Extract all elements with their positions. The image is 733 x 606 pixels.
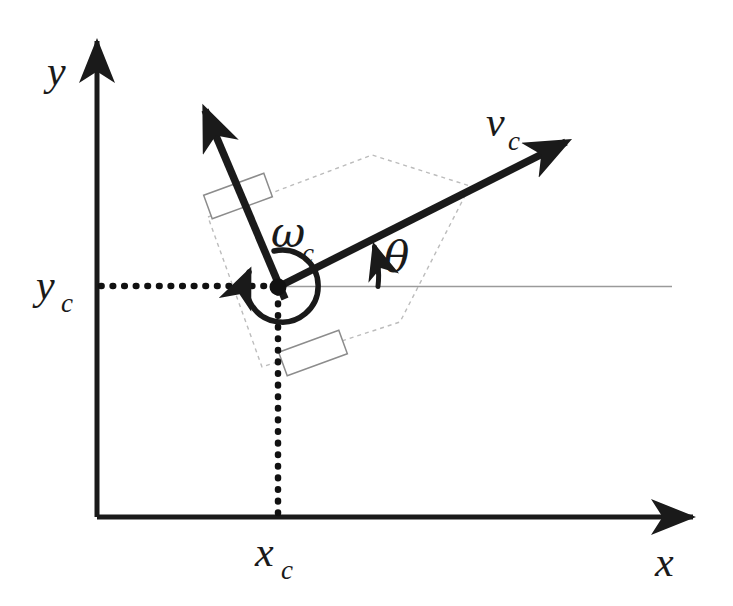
yc-label-subscript: c [61,288,73,318]
center-point-marker [270,279,287,296]
yc-label-base: y [32,262,55,308]
xc-label-subscript: c [281,555,293,585]
y-axis-label: y [43,48,66,94]
vc-label-subscript: c [508,126,520,156]
vc-label-base: v [486,99,505,145]
omega-label-base: ω [271,208,305,257]
x-axis-label: x [654,539,674,585]
theta-label: θ [384,233,409,282]
diagram-canvas: y x y c x c v c ω c θ [0,0,733,606]
omega-label-subscript: c [302,238,314,268]
xc-label-base: x [254,529,274,575]
kinematics-diagram: y x y c x c v c ω c θ [0,0,733,606]
